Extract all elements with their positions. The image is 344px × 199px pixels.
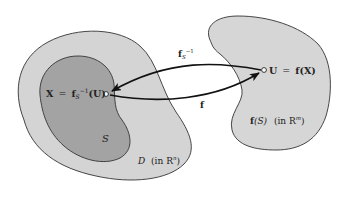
label-forward-map: f [200, 100, 205, 110]
label-inverse-map: fS−1 [178, 48, 194, 60]
point-u [262, 68, 267, 73]
region-image [208, 16, 330, 150]
label-region-s: S [102, 133, 109, 144]
label-point-u: U = f(X) [269, 65, 316, 76]
mapping-diagram: X = fS−1(U) U = f(X) fS−1 f S D (in Rn) … [0, 0, 344, 199]
